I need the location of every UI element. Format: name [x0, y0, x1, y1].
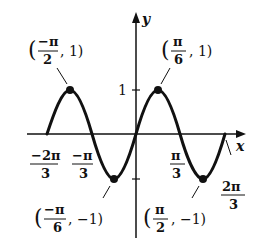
svg-text:π: π — [155, 202, 165, 217]
svg-text:−π: −π — [44, 202, 65, 217]
leader-line — [192, 186, 199, 198]
svg-text:(: ( — [143, 205, 152, 230]
point-trough-left — [110, 175, 118, 183]
svg-text:, 1): , 1) — [189, 43, 212, 59]
point-label-neg-pi-2: ( −π 2 , 1) — [28, 34, 83, 67]
leader-line — [57, 68, 67, 84]
x-tick-label-pi-3: π 3 — [170, 148, 185, 181]
svg-text:2: 2 — [43, 52, 52, 67]
point-label-neg-pi-6: ( −π 6 , −1) — [34, 202, 103, 235]
svg-text:π: π — [173, 34, 183, 49]
point-peak-right — [154, 86, 162, 94]
svg-text:2π: 2π — [222, 179, 241, 194]
svg-text:3: 3 — [172, 166, 181, 181]
svg-text:(: ( — [161, 37, 170, 62]
x-tick-label-neg-2pi-3: −2π 3 — [30, 148, 61, 181]
point-trough-right — [199, 175, 207, 183]
svg-text:−π: −π — [38, 34, 59, 49]
svg-text:6: 6 — [53, 220, 62, 235]
svg-text:, −1): , −1) — [68, 211, 103, 227]
svg-text:3: 3 — [229, 197, 238, 212]
point-label-pi-2: ( π 2 , −1) — [143, 202, 206, 235]
svg-text:−π: −π — [72, 148, 93, 163]
svg-text:(: ( — [28, 37, 37, 62]
x-tick-label-neg-pi-3: −π 3 — [72, 148, 93, 181]
leader-line — [103, 186, 110, 198]
x-tick-label-2pi-3: 2π 3 — [221, 179, 245, 212]
svg-text:2: 2 — [156, 220, 165, 235]
svg-text:3: 3 — [79, 166, 88, 181]
svg-text:−2π: −2π — [31, 148, 61, 163]
svg-text:6: 6 — [174, 52, 183, 67]
leader-line — [161, 68, 170, 84]
y-tick-label-1: 1 — [118, 82, 127, 98]
point-label-pi-6: ( π 6 , 1) — [161, 34, 212, 67]
svg-text:(: ( — [34, 205, 43, 230]
x-axis-label: x — [235, 138, 245, 154]
svg-text:, 1): , 1) — [60, 43, 83, 59]
point-peak-left — [66, 86, 74, 94]
leader-line — [226, 140, 231, 155]
svg-text:π: π — [171, 148, 181, 163]
sine-graph: x y 1 ( −π 2 , 1) ( π 6 , 1) −2π 3 — [0, 0, 256, 247]
svg-text:3: 3 — [41, 166, 50, 181]
y-axis-label: y — [141, 11, 151, 27]
svg-text:, −1): , −1) — [171, 211, 206, 227]
